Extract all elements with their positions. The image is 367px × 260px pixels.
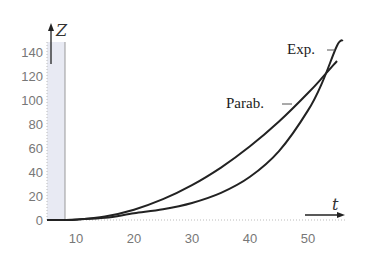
x-tick-20: 20 [127, 231, 141, 246]
shaded-band [47, 42, 65, 220]
exp-curve [64, 40, 342, 220]
x-tick-50: 50 [301, 231, 315, 246]
y-tick-60: 60 [29, 141, 43, 156]
x-axis-label: t [332, 195, 339, 214]
y-tick-20: 20 [29, 189, 43, 204]
parab-label: Parab. [226, 95, 264, 111]
x-tick-10: 10 [69, 231, 83, 246]
y-tick-labels: 140 120 100 80 60 40 20 0 [21, 45, 43, 228]
y-axis-label: Z [55, 21, 68, 40]
x-tick-40: 40 [243, 231, 257, 246]
y-tick-140: 140 [21, 45, 43, 60]
x-tick-30: 30 [185, 231, 199, 246]
y-tick-80: 80 [29, 117, 43, 132]
exp-label: Exp. [287, 41, 315, 57]
y-tick-0: 0 [36, 213, 43, 228]
parab-curve [64, 61, 337, 220]
x-tick-labels: 10 20 30 40 50 [69, 231, 315, 246]
chart: 140 120 100 80 60 40 20 0 10 20 30 40 50… [0, 0, 367, 260]
y-tick-100: 100 [21, 93, 43, 108]
t-axis-arrow-icon [305, 212, 345, 218]
y-tick-120: 120 [21, 69, 43, 84]
y-tick-40: 40 [29, 165, 43, 180]
